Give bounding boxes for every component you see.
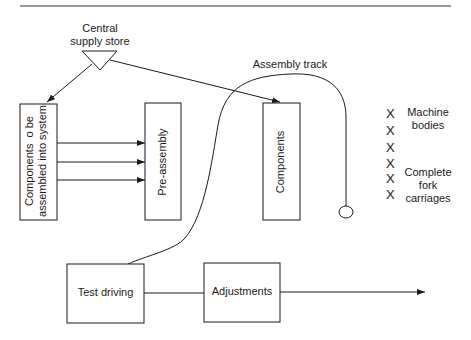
fork-line2: fork <box>403 179 453 192</box>
fork-carriage-marker-2: X <box>386 172 395 185</box>
machine-body-marker-2: X <box>386 124 395 137</box>
fork-line1: Complete <box>403 166 453 179</box>
arrow-store-to-components-box <box>47 64 92 102</box>
fork-line3: carriages <box>403 192 453 205</box>
assembly-track-label: Assembly track <box>250 58 330 71</box>
central-supply-store-label: Central supply store <box>66 22 134 48</box>
machine-bodies-line1: Machine <box>404 106 452 119</box>
fork-carriage-marker-3: X <box>386 188 395 201</box>
components-label: Components <box>274 112 288 212</box>
machine-bodies-label: Machine bodies <box>404 106 452 132</box>
adjustments-label: Adjustments <box>204 285 280 298</box>
components-to-assemble-line2: assembled into system <box>36 103 49 219</box>
pre-assembly-label: Pre-assembly <box>156 112 170 212</box>
complete-fork-carriages-label: Complete fork carriages <box>403 166 453 205</box>
components-to-assemble-line1: Components o be <box>23 103 36 219</box>
machine-body-marker-1: X <box>386 107 395 120</box>
fork-carriage-marker-1: X <box>386 157 395 170</box>
test-driving-label: Test driving <box>67 286 144 299</box>
components-to-assemble-label: Components o be assembled into system <box>23 103 53 219</box>
machine-bodies-line2: bodies <box>404 119 452 132</box>
track-end-circle <box>339 206 353 218</box>
machine-body-marker-3: X <box>386 141 395 154</box>
central-supply-store-line1: Central <box>66 22 134 35</box>
central-supply-store-line2: supply store <box>66 35 134 48</box>
